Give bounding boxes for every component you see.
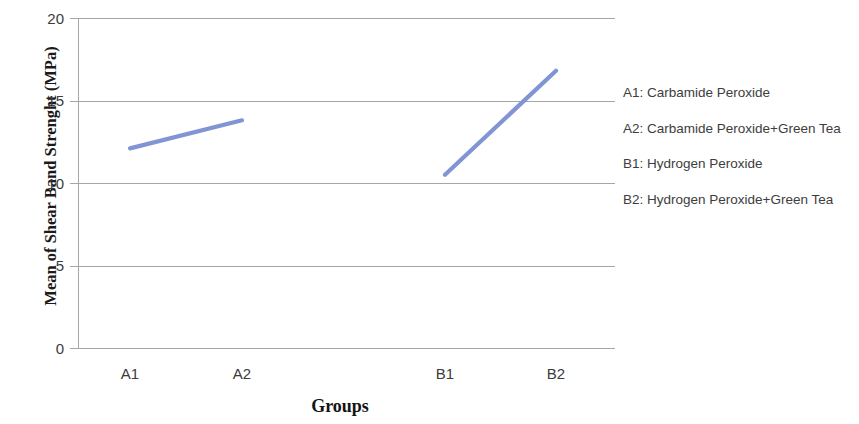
- legend-item-a2: A2: Carbamide Peroxide+Green Tea: [623, 122, 859, 136]
- x-tick-label-a1: A1: [100, 366, 160, 381]
- y-tick-label-10: 10: [20, 176, 64, 191]
- y-tick-mark-5: [70, 266, 78, 267]
- y-tick-mark-10: [70, 183, 78, 184]
- y-tick-label-5: 5: [20, 258, 64, 273]
- x-axis-title: Groups: [230, 396, 450, 417]
- legend: A1: Carbamide Peroxide A2: Carbamide Per…: [623, 86, 859, 228]
- gridline-10: [78, 183, 615, 184]
- y-tick-mark-20: [70, 18, 78, 19]
- chart-figure: Mean of Shear Band Strenght (MPa) 20 15 …: [0, 0, 859, 424]
- gridline-15: [78, 101, 615, 102]
- legend-item-a1: A1: Carbamide Peroxide: [623, 86, 859, 100]
- x-tick-label-b2: B2: [526, 366, 586, 381]
- legend-item-b1: B1: Hydrogen Peroxide: [623, 157, 859, 171]
- y-tick-mark-0: [70, 348, 78, 349]
- gridline-0: [78, 348, 615, 349]
- y-tick-mark-15: [70, 101, 78, 102]
- gridline-20: [78, 18, 615, 19]
- legend-item-b2: B2: Hydrogen Peroxide+Green Tea: [623, 193, 859, 207]
- x-tick-label-b1: B1: [415, 366, 475, 381]
- y-tick-label-15: 15: [20, 93, 64, 108]
- x-tick-label-a2: A2: [212, 366, 272, 381]
- y-tick-label-0: 0: [20, 341, 64, 356]
- y-tick-label-20: 20: [20, 11, 64, 26]
- gridline-5: [78, 266, 615, 267]
- plot-area: [78, 18, 615, 348]
